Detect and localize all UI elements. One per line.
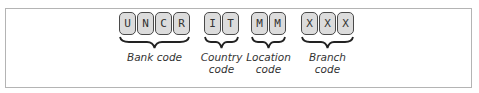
location-code-group: M M Location code xyxy=(251,12,294,75)
char-box: I xyxy=(204,12,221,35)
label-line: Country xyxy=(196,51,247,63)
curly-brace-icon xyxy=(301,36,354,49)
char-box: R xyxy=(173,12,190,35)
char-box: T xyxy=(222,12,239,35)
branch-code-group: X X X Branch code xyxy=(301,12,354,75)
country-code-label: Country code xyxy=(196,51,247,75)
char-box: M xyxy=(269,12,286,35)
char-box: X xyxy=(337,12,354,35)
char-box: M xyxy=(251,12,268,35)
char-box: C xyxy=(155,12,172,35)
label-line: Location xyxy=(243,51,294,63)
char-box: N xyxy=(137,12,154,35)
bank-code-label: Bank code xyxy=(119,51,190,63)
label-line: Bank code xyxy=(119,51,190,63)
label-line: code xyxy=(301,63,354,75)
country-code-boxes: I T xyxy=(204,12,247,35)
char-box: X xyxy=(301,12,318,35)
curly-brace-icon xyxy=(119,36,190,49)
branch-code-label: Branch code xyxy=(301,51,354,75)
label-line: Branch xyxy=(301,51,354,63)
bank-code-boxes: U N C R xyxy=(119,12,190,35)
branch-code-boxes: X X X xyxy=(301,12,354,35)
bank-code-group: U N C R Bank code xyxy=(119,12,190,63)
location-code-boxes: M M xyxy=(251,12,294,35)
char-box: U xyxy=(119,12,136,35)
curly-brace-icon xyxy=(251,36,286,49)
label-line: code xyxy=(243,63,294,75)
label-line: code xyxy=(196,63,247,75)
char-box: X xyxy=(319,12,336,35)
curly-brace-icon xyxy=(204,36,239,49)
country-code-group: I T Country code xyxy=(204,12,247,75)
location-code-label: Location code xyxy=(243,51,294,75)
